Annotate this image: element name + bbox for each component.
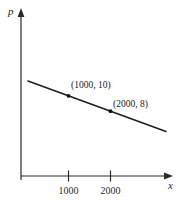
data-point-marker-0 [67,94,71,98]
x-tick-label-1000: 1000 [59,186,79,196]
data-point-label-1000-10: (1000, 10) [71,81,111,91]
y-axis [18,8,25,180]
chart-figure: p x 1000 2000 (1000, 10) (2000, 8) [0,0,184,211]
plot-canvas [0,0,184,211]
y-axis-label: p [8,6,14,17]
x-axis-label: x [168,180,173,191]
y-axis-arrowhead [18,8,25,17]
x-axis [21,173,173,180]
x-tick-label-2000: 2000 [101,186,121,196]
data-point-marker-1 [109,109,113,113]
data-point-label-2000-8: (2000, 8) [113,100,148,110]
